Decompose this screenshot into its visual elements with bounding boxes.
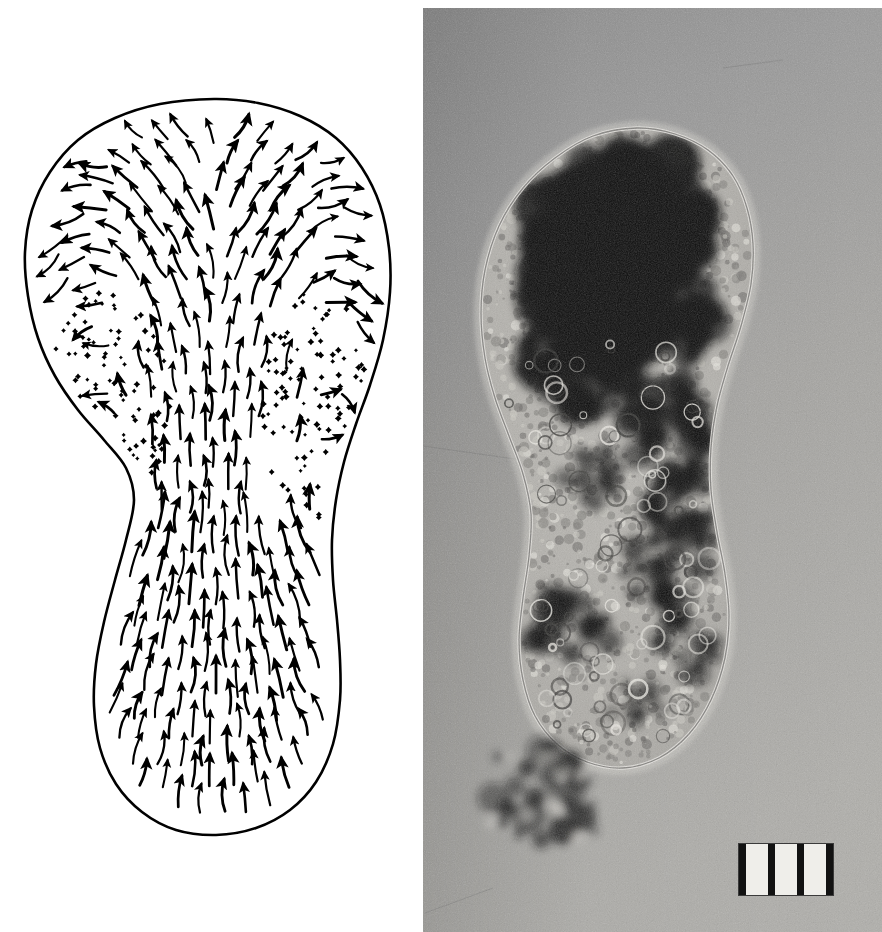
- scale-bar-tick: [797, 844, 804, 895]
- flow-arrow: [227, 726, 229, 761]
- flow-arrow: [309, 485, 310, 509]
- scale-bar-tick: [826, 844, 833, 895]
- flow-arrow: [209, 480, 210, 508]
- flow-arrow: [151, 415, 153, 444]
- flow-arrow: [224, 410, 225, 440]
- flow-arrow: [213, 438, 214, 466]
- figure-root: Outline drawing of an amoeba with arrows…: [0, 0, 882, 932]
- flow-arrow: [179, 406, 180, 439]
- scale-bar-interval: [746, 844, 768, 895]
- flow-arrow: [203, 591, 204, 628]
- flow-arrow: [209, 754, 210, 786]
- scale-bar: [738, 843, 834, 896]
- panel-vector-flow-diagram: Outline drawing of an amoeba with arrows…: [0, 0, 420, 932]
- flow-arrow: [210, 711, 211, 744]
- drawing-canvas: [0, 0, 420, 932]
- scale-bar-tick: [768, 844, 775, 895]
- scale-bar-interval: [775, 844, 797, 895]
- micrograph-canvas: [423, 8, 882, 932]
- flow-arrow: [246, 458, 247, 490]
- flow-arrow: [189, 434, 190, 466]
- flow-arrow: [205, 404, 206, 439]
- panel-phase-contrast-micrograph: Grainy black and white light micrograph …: [423, 8, 882, 932]
- scale-bar-interval: [804, 844, 826, 895]
- scale-bar-tick: [739, 844, 746, 895]
- flow-arrow: [164, 436, 165, 463]
